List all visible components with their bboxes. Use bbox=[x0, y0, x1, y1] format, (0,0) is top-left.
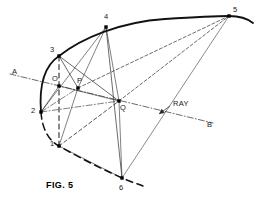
node-marker-2 bbox=[39, 110, 42, 113]
arc-dashed bbox=[41, 112, 143, 186]
line-2-4 bbox=[41, 27, 106, 112]
line-1-Q bbox=[59, 101, 119, 146]
node-label-P: P bbox=[77, 77, 82, 85]
node-label-O: O bbox=[52, 75, 58, 83]
node-label-5: 5 bbox=[233, 6, 237, 14]
figure-caption: FIG. 5 bbox=[46, 181, 73, 190]
curve-group bbox=[41, 16, 253, 186]
node-label-6: 6 bbox=[119, 184, 123, 192]
line-2-Q-ray bbox=[41, 101, 119, 112]
line-O-2 bbox=[41, 86, 59, 112]
endpoint-label-B: B bbox=[207, 121, 212, 129]
node-label-Q: Q bbox=[120, 104, 126, 112]
diagram-canvas bbox=[0, 0, 257, 203]
node-marker-O bbox=[57, 84, 60, 87]
node-label-4: 4 bbox=[104, 13, 108, 21]
figure-5-diagram: 123456OPQABRAY FIG. 5 bbox=[0, 0, 257, 203]
endpoint-label-A: A bbox=[12, 68, 17, 76]
node-marker-P bbox=[76, 86, 79, 89]
node-marker-5 bbox=[227, 14, 230, 17]
ray-pointer-group bbox=[159, 106, 170, 114]
node-label-1: 1 bbox=[50, 140, 54, 148]
line-6-5 bbox=[122, 16, 229, 178]
annotation-ray: RAY bbox=[173, 100, 189, 108]
line-P-5 bbox=[78, 16, 229, 88]
arc-solid bbox=[41, 16, 253, 112]
line-1-P bbox=[59, 88, 78, 146]
line-3-P bbox=[59, 56, 78, 88]
node-label-3: 3 bbox=[50, 46, 54, 54]
node-label-2: 2 bbox=[31, 107, 35, 115]
node-marker-3 bbox=[57, 54, 60, 57]
node-marker-1 bbox=[57, 144, 60, 147]
line-O-Q bbox=[59, 86, 119, 101]
ray-arrowhead-icon bbox=[159, 109, 165, 114]
node-marker-6 bbox=[120, 176, 123, 179]
segment-group bbox=[10, 16, 229, 178]
node-marker-group bbox=[39, 14, 230, 179]
node-marker-4 bbox=[104, 25, 107, 28]
line-Q-5 bbox=[119, 16, 229, 101]
